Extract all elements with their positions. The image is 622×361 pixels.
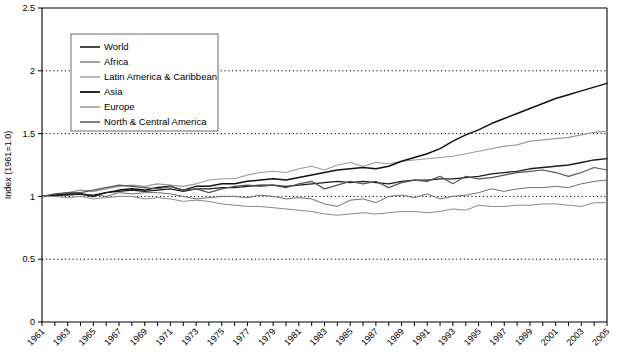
y-tick-label: 1 xyxy=(30,192,35,202)
y-tick-label: 2 xyxy=(30,66,35,76)
chart-container: 00.511.522.5Index (1961=1.0)196119631965… xyxy=(0,0,622,361)
x-tick-label: 1993 xyxy=(436,326,457,347)
y-tick-label: 1.5 xyxy=(22,129,35,139)
x-axis: 1961196319651967196919711973197519771979… xyxy=(25,322,611,348)
x-tick-label: 1969 xyxy=(128,326,149,347)
x-tick-label: 1985 xyxy=(333,326,354,347)
series-line xyxy=(42,180,607,206)
y-tick-label: 0.5 xyxy=(22,254,35,264)
x-tick-label: 1991 xyxy=(410,326,431,347)
legend-label: Africa xyxy=(104,56,129,67)
legend-label: Europe xyxy=(104,101,135,112)
x-tick-label: 1965 xyxy=(77,326,98,347)
y-tick-label: 0 xyxy=(30,317,35,327)
legend-label: North & Central America xyxy=(104,116,207,127)
series-line xyxy=(42,159,607,197)
x-tick-label: 1995 xyxy=(462,326,483,347)
x-tick-label: 2005 xyxy=(590,326,611,347)
x-tick-label: 2003 xyxy=(564,326,585,347)
x-tick-label: 1983 xyxy=(308,326,329,347)
series-line xyxy=(42,131,607,196)
x-tick-label: 1999 xyxy=(513,326,534,347)
x-tick-label: 1979 xyxy=(256,326,277,347)
x-tick-label: 1989 xyxy=(385,326,406,347)
legend-label: Asia xyxy=(104,86,123,97)
x-tick-label: 1967 xyxy=(102,326,123,347)
legend-label: Latin America & Caribbean xyxy=(104,71,217,82)
series-line xyxy=(42,196,607,215)
x-tick-label: 1975 xyxy=(205,326,226,347)
x-tick-label: 2001 xyxy=(539,326,560,347)
x-tick-label: 1977 xyxy=(231,326,252,347)
y-axis-title-text: Index (1961=1.0) xyxy=(3,131,13,199)
x-tick-label: 1971 xyxy=(154,326,175,347)
legend: WorldAfricaLatin America & CaribbeanAsia… xyxy=(71,34,218,131)
x-tick-label: 1997 xyxy=(487,326,508,347)
line-chart: 00.511.522.5Index (1961=1.0)196119631965… xyxy=(0,0,622,361)
x-tick-label: 1981 xyxy=(282,326,303,347)
x-tick-label: 1973 xyxy=(179,326,200,347)
x-tick-label: 1961 xyxy=(25,326,46,347)
x-tick-label: 1963 xyxy=(51,326,72,347)
y-axis: 00.511.522.5 xyxy=(22,3,42,327)
y-tick-label: 2.5 xyxy=(22,3,35,13)
y-axis-title: Index (1961=1.0) xyxy=(3,131,13,199)
x-tick-label: 1987 xyxy=(359,326,380,347)
legend-label: World xyxy=(104,41,129,52)
